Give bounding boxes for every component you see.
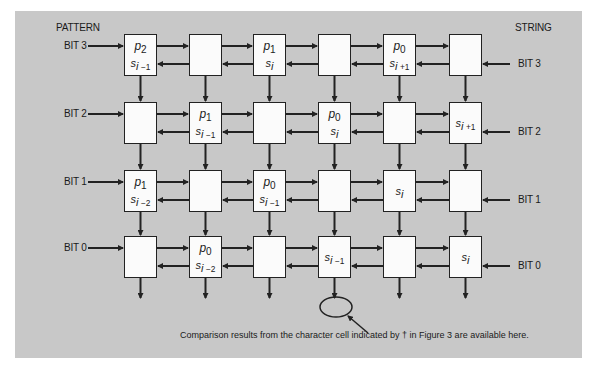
string-symbol: si (254, 57, 285, 72)
pattern-symbol: p0 (384, 39, 415, 55)
string-symbol: si −1 (125, 57, 156, 72)
string-symbol: si (319, 125, 350, 140)
pattern-bit-label: BIT 1 (64, 176, 87, 187)
string-symbol: si −2 (125, 193, 156, 208)
string-symbol: si −2 (190, 259, 221, 274)
character-cell (449, 34, 482, 76)
string-symbol: si −1 (319, 251, 350, 266)
character-cell: p0si (318, 102, 351, 144)
character-cell (124, 236, 157, 278)
character-cell (189, 34, 222, 76)
character-cell: si −1 (318, 236, 351, 278)
character-cell (449, 170, 482, 212)
highlight-ellipse (320, 297, 352, 317)
pattern-label: PATTERN (56, 22, 100, 33)
character-cell: si +1 (449, 102, 482, 144)
string-symbol: si (450, 251, 481, 266)
character-cell (318, 34, 351, 76)
character-cell (383, 236, 416, 278)
character-cell: p0si −1 (253, 170, 286, 212)
string-bit-label: BIT 1 (518, 194, 541, 205)
string-symbol: si +1 (450, 117, 481, 132)
pattern-bit-label: BIT 2 (64, 108, 87, 119)
pattern-symbol: p1 (190, 107, 221, 123)
string-bit-label: BIT 2 (518, 126, 541, 137)
pattern-symbol: p0 (190, 241, 221, 257)
character-cell: si (383, 170, 416, 212)
string-symbol: si +1 (384, 57, 415, 72)
pattern-symbol: p1 (254, 39, 285, 55)
pattern-symbol: p2 (125, 39, 156, 55)
string-bit-label: BIT 0 (518, 260, 541, 271)
pattern-symbol: p0 (254, 175, 285, 191)
character-cell (383, 102, 416, 144)
caption: Comparison results from the character ce… (180, 330, 529, 340)
string-symbol: si (384, 185, 415, 200)
character-cell (318, 170, 351, 212)
pattern-bit-label: BIT 3 (64, 40, 87, 51)
string-symbol: si −1 (254, 193, 285, 208)
string-symbol: si −1 (190, 125, 221, 140)
connection-arrows (0, 0, 602, 369)
character-cell: p0si +1 (383, 34, 416, 76)
character-cell: p1si −1 (189, 102, 222, 144)
string-bit-label: BIT 3 (518, 58, 541, 69)
character-cell (124, 102, 157, 144)
character-cell: p1si (253, 34, 286, 76)
pattern-symbol: p0 (319, 107, 350, 123)
character-cell: p0si −2 (189, 236, 222, 278)
character-cell: p2si −1 (124, 34, 157, 76)
character-cell: p1si −2 (124, 170, 157, 212)
character-cell: si (449, 236, 482, 278)
character-cell (253, 102, 286, 144)
pattern-symbol: p1 (125, 175, 156, 191)
character-cell (189, 170, 222, 212)
string-label: STRING (515, 22, 552, 33)
character-cell (253, 236, 286, 278)
pattern-bit-label: BIT 0 (64, 242, 87, 253)
